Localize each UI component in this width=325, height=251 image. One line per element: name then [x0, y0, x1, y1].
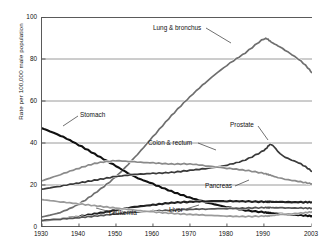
- x-tick-1940: 1940: [63, 231, 93, 237]
- x-tick-1990: 1990: [248, 231, 278, 237]
- series-label-lung-bronchus: Lung & bronchus: [153, 25, 201, 31]
- series-label-pancreas: Pancreas: [205, 183, 232, 189]
- series-lung-bronchus: [42, 38, 312, 217]
- y-tick-20: 20: [21, 182, 37, 188]
- y-tick-40: 40: [21, 140, 37, 146]
- x-tick-1950: 1950: [100, 231, 130, 237]
- x-tick-1970: 1970: [174, 231, 204, 237]
- series-line: [42, 38, 312, 217]
- x-tick-1980: 1980: [211, 231, 241, 237]
- plot-area: [41, 17, 311, 227]
- y-tick-100: 100: [21, 14, 37, 20]
- x-tick-1930: 1930: [26, 231, 56, 237]
- series-label-stomach: Stomach: [80, 112, 105, 118]
- series-halo: [42, 38, 312, 217]
- series-canvas: [42, 17, 312, 227]
- series-label-leukemia: Leukemia: [109, 210, 137, 216]
- x-tick-2003: 2003: [296, 231, 325, 237]
- series-label-prostate: Prostate: [230, 122, 254, 128]
- y-tick-60: 60: [21, 98, 37, 104]
- x-tick-1960: 1960: [137, 231, 167, 237]
- y-axis-title: Rate per 100,000 male population: [17, 0, 24, 152]
- series-label-liver: Liver: [169, 207, 183, 213]
- series-label-colon-rectum: Colon & rectum: [148, 140, 192, 146]
- cancer-death-rate-line-chart: Rate per 100,000 male population 0204060…: [0, 0, 325, 251]
- y-tick-80: 80: [21, 56, 37, 62]
